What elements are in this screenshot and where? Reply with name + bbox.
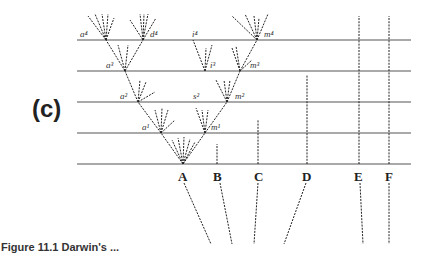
node-label-a3: a³ (106, 60, 114, 70)
node-label-m1: m¹ (211, 122, 220, 132)
species-label-a: A (178, 169, 188, 184)
species-label-e: E (354, 169, 363, 184)
node-label-m2: m² (235, 91, 244, 101)
node-label-i3: i³ (210, 60, 216, 70)
node-label-a4: a⁴ (80, 29, 88, 39)
species-label-f: F (385, 169, 393, 184)
figure-caption: Figure 11.1 Darwin's ... (1, 241, 119, 253)
node-label-i4: i⁴ (192, 29, 198, 39)
species-label-b: B (213, 169, 222, 184)
node-label-m4: m⁴ (264, 29, 274, 39)
node-label-a1: a¹ (142, 122, 150, 132)
species-label-d: D (302, 169, 311, 184)
node-label-s2: s² (193, 91, 200, 101)
node-labels: a⁴ d⁴ i⁴ m⁴ a³ i³ m³ a² s² m² a¹ m¹ (80, 29, 274, 132)
branches (88, 14, 389, 244)
node-label-m3: m³ (250, 60, 259, 70)
node-label-d4: d⁴ (150, 29, 158, 39)
species-label-c: C (254, 169, 263, 184)
time-level-lines (77, 40, 411, 164)
phylogeny-diagram: a⁴ d⁴ i⁴ m⁴ a³ i³ m³ a² s² m² a¹ m¹ A B … (0, 0, 423, 256)
node-label-a2: a² (120, 91, 128, 101)
species-labels: A B C D E F (178, 169, 393, 184)
